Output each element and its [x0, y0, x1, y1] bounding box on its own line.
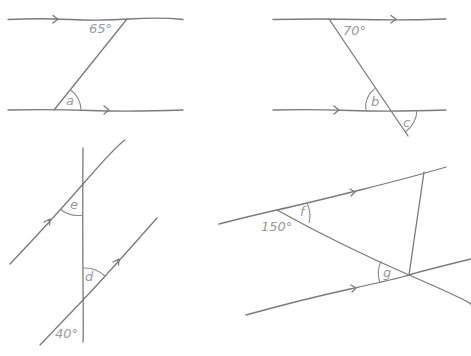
vertical-transversal-line: [83, 148, 84, 342]
angle-label-f: f: [300, 204, 307, 219]
parallel-line-lower: [273, 110, 446, 112]
angle-label-g: g: [383, 265, 391, 280]
transversal-line: [277, 210, 471, 305]
angle-label-d: d: [85, 269, 94, 284]
angle-label-40: 40°: [55, 326, 78, 341]
angle-arc-f: [307, 203, 310, 223]
angle-diagrams: 65° a 70° b c e d 40° 150°: [0, 0, 471, 356]
angle-arc-g: [378, 261, 381, 283]
panel-top-left: 65° a: [8, 16, 183, 115]
angle-label-b: b: [371, 94, 379, 109]
parallel-line-upper: [8, 18, 183, 20]
angle-label-c: c: [403, 115, 410, 130]
parallel-line-upper: [10, 140, 125, 264]
parallel-line-upper: [219, 167, 446, 224]
panel-bottom-right: 150° f g: [219, 167, 471, 315]
angle-label-e: e: [70, 197, 78, 212]
angle-label-65: 65°: [89, 21, 112, 36]
transversal-line: [329, 19, 408, 136]
panel-top-right: 70° b c: [273, 16, 446, 137]
angle-label-a: a: [66, 93, 74, 108]
parallel-arrow-icon: [104, 106, 109, 114]
connecting-line: [409, 172, 424, 275]
parallel-line-lower: [8, 110, 183, 112]
angle-label-150: 150°: [261, 219, 292, 234]
parallel-line-upper: [273, 19, 446, 20]
angle-label-70: 70°: [343, 23, 366, 38]
panel-bottom-left: e d 40°: [10, 140, 157, 345]
